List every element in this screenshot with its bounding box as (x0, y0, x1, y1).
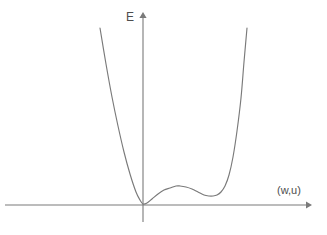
potential-energy-curve (100, 28, 247, 204)
plot-canvas (0, 0, 327, 235)
vertical-axis-arrow-icon (139, 12, 146, 18)
energy-axis-label: E (126, 11, 134, 23)
horizontal-axis-arrow-icon (306, 201, 312, 208)
order-parameter-axis-label: (w,u) (277, 185, 301, 196)
potential-energy-figure: E (w,u) (0, 0, 327, 235)
